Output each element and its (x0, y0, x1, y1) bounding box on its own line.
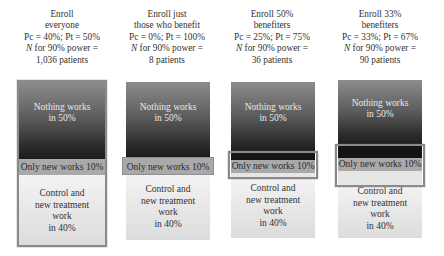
sample-size-label: N for 90% power = (116, 43, 218, 54)
segment-label: in 40% (19, 223, 105, 235)
probabilities-label: Pc = 0%; Pt = 100% (116, 32, 218, 43)
segment-label: Control and (231, 183, 315, 195)
column-3-header: Enroll 50% benefiters Pc = 25%; Pt = 75%… (222, 9, 322, 66)
probabilities-label: Pc = 40%; Pt = 50% (12, 32, 112, 43)
control-and-new-segment: Control and new treatment work in 40% (126, 175, 210, 240)
control-and-new-segment: Control and new treatment work in 40% (231, 178, 315, 238)
column-2-header: Enroll just those who benefit Pc = 0%; P… (116, 9, 218, 66)
segment-label: Control and (19, 188, 105, 200)
segment-label: in 40% (338, 221, 422, 233)
column-title-line: those who benefit (116, 20, 218, 31)
segment-label: new treatment (338, 198, 422, 210)
segment-label: Nothing works (19, 102, 105, 113)
segment-label: in 50% (338, 109, 422, 120)
sample-size-label: N for 90% power = (222, 43, 322, 54)
sample-size-label: N for 90% power = (12, 43, 112, 54)
only-new-works-segment: Only new works 10% (19, 159, 105, 175)
column-title-line: Enroll (12, 9, 112, 20)
column-title-line: benefiters (222, 20, 322, 31)
segment-label: in 50% (231, 113, 315, 124)
column-4-header: Enroll 33% benefiters Pc = 33%; Pt = 67%… (330, 9, 430, 66)
column-1-header: Enroll everyone Pc = 40%; Pt = 50% N for… (12, 9, 112, 66)
segment-label: in 50% (126, 113, 210, 124)
nothing-works-segment: Nothing works in 50% (19, 82, 105, 159)
column-title-line: Enroll just (116, 9, 218, 20)
only-new-works-segment: Only new works 10% (338, 158, 422, 171)
segment-label: new treatment (126, 196, 210, 208)
sample-size-value: 90 patients (330, 55, 430, 66)
segment-label: Control and (126, 184, 210, 196)
sample-size-value: 36 patients (222, 55, 322, 66)
nothing-works-segment: Nothing works in 50% (338, 80, 422, 146)
column-4-diagram: Nothing works in 50% Only new works 10% … (338, 80, 422, 238)
probabilities-label: Pc = 25%; Pt = 75% (222, 32, 322, 43)
segment-label: new treatment (231, 195, 315, 207)
segment-label: new treatment (19, 200, 105, 212)
nothing-works-segment: Nothing works in 50% (126, 82, 210, 157)
sample-size-label: N for 90% power = (330, 43, 430, 54)
segment-label: work (126, 207, 210, 219)
segment-label: Nothing works (338, 98, 422, 109)
column-title-line: everyone (12, 20, 112, 31)
only-new-works-segment: Only new works 10% (122, 157, 214, 175)
column-3-diagram: Nothing works in 50% Only new works 10% … (231, 82, 315, 238)
nothing-works-enrolled-strip (338, 146, 422, 158)
control-enrolled-strip (338, 171, 422, 185)
segment-label: in 50% (19, 113, 105, 124)
control-and-new-segment: Control and new treatment work in 40% (19, 175, 105, 245)
segment-label: work (19, 211, 105, 223)
nothing-works-segment: Nothing works in 50% (231, 82, 315, 154)
column-1-diagram: Nothing works in 50% Only new works 10% … (19, 82, 105, 245)
segment-label: work (338, 209, 422, 221)
segment-label: Nothing works (126, 102, 210, 113)
sample-size-value: 8 patients (116, 55, 218, 66)
segment-label: work (231, 206, 315, 218)
probabilities-label: Pc = 33%; Pt = 67% (330, 32, 430, 43)
segment-label: in 40% (126, 219, 210, 231)
segment-label: in 40% (231, 218, 315, 230)
segment-label: Nothing works (231, 102, 315, 113)
column-title-line: Enroll 50% (222, 9, 322, 20)
column-title-line: benefiters (330, 20, 430, 31)
control-and-new-segment: Control and new treatment work in 40% (338, 185, 422, 238)
only-new-works-segment: Only new works 10% (231, 160, 315, 173)
sample-size-value: 1,036 patients (12, 55, 112, 66)
column-title-line: Enroll 33% (330, 9, 430, 20)
segment-label: Control and (338, 186, 422, 198)
